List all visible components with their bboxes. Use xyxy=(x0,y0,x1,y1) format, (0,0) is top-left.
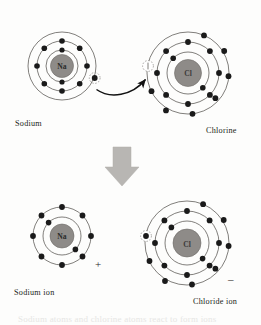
diagram-canvas: Na xyxy=(0,0,261,325)
chloride-ion: Cl xyxy=(141,201,232,287)
ionic-bonding-diagram: Na xyxy=(0,0,261,325)
sodium-label: Sodium xyxy=(15,119,42,128)
sodium-valence-electron xyxy=(92,75,98,81)
chlorine-atom: Cl xyxy=(143,32,232,117)
chloride-ion-nucleus-label: Cl xyxy=(183,240,191,249)
sodium-ion-label: Sodium ion xyxy=(14,288,55,297)
sodium-ion: Na xyxy=(30,204,94,268)
electron-transfer-arrow xyxy=(97,80,146,95)
chlorine-nucleus-label: Cl xyxy=(184,69,192,78)
chloride-ion-label: Chloride ion xyxy=(193,297,237,306)
reaction-down-arrow xyxy=(105,147,139,186)
sodium-ion-nucleus-label: Na xyxy=(57,232,66,241)
cut-off-caption: Sodium atoms and chlorine atoms react to… xyxy=(0,314,261,325)
chlorine-label: Chlorine xyxy=(206,126,237,135)
sodium-atom: Na xyxy=(28,32,100,100)
chloride-ion-charge-sign: – xyxy=(228,274,234,285)
sodium-nucleus-label: Na xyxy=(57,62,66,71)
sodium-ion-charge-sign: + xyxy=(95,259,101,270)
chloride-gained-electron xyxy=(143,233,149,239)
